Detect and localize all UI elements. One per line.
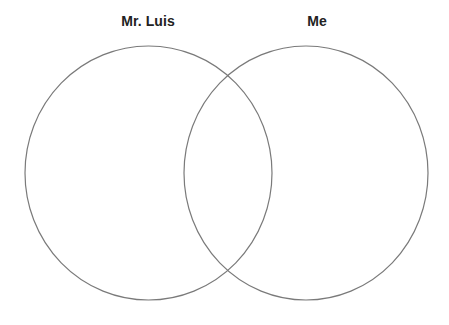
circle-mr-luis [25, 46, 272, 300]
label-me: Me [307, 13, 327, 29]
label-mr-luis: Mr. Luis [121, 13, 175, 29]
venn-circles [0, 0, 449, 325]
venn-diagram: Mr. Luis Me [0, 0, 449, 325]
circle-me [184, 46, 428, 300]
